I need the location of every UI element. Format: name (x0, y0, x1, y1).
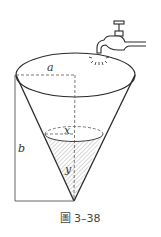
label-b: b (18, 142, 25, 155)
label-y: y (64, 163, 72, 176)
cone-diagram: a b x y 圖 3–38 (0, 0, 161, 237)
label-a: a (47, 61, 54, 74)
water-splash-icon (89, 57, 109, 65)
faucet-icon (97, 21, 146, 53)
water-surface-back (45, 127, 103, 135)
label-x: x (64, 124, 71, 137)
figure-caption: 圖 3–38 (60, 212, 101, 225)
